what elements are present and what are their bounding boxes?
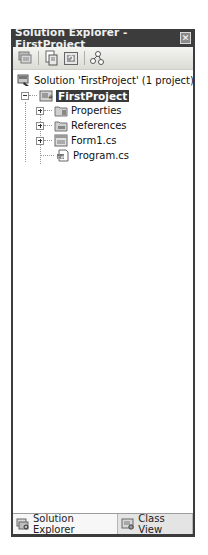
tree-item-label: References (71, 120, 127, 131)
form-icon (54, 134, 68, 147)
csharp-project-icon: # (39, 89, 53, 102)
tree-item-references[interactable]: References (13, 118, 193, 133)
tab-label: Solution Explorer (33, 513, 113, 535)
toolbar (13, 47, 193, 70)
close-icon: ✕ (182, 34, 190, 43)
title-bar[interactable]: Solution Explorer - FirstProject ✕ (13, 29, 193, 47)
solution-tree: Solution 'FirstProject' (1 project) # Fi… (13, 70, 193, 513)
collapse-toggle[interactable] (21, 92, 29, 100)
references-folder-icon (54, 119, 68, 132)
toolbar-separator (84, 51, 85, 65)
properties-folder-icon (54, 104, 68, 117)
properties-button[interactable] (43, 50, 59, 66)
view-class-diagram-button[interactable] (89, 50, 105, 66)
solution-explorer-panel: Solution Explorer - FirstProject ✕ (11, 29, 195, 537)
tree-item-form1[interactable]: Form1.cs (13, 133, 193, 148)
tree-connector (29, 95, 37, 96)
expand-toggle[interactable] (36, 107, 44, 115)
refresh-icon (63, 50, 79, 66)
tree-connector (44, 140, 52, 141)
tab-class-view[interactable]: Class View (118, 514, 193, 534)
expand-toggle[interactable] (36, 137, 44, 145)
tree-item-label: Form1.cs (71, 135, 116, 146)
solution-icon (17, 74, 31, 87)
close-button[interactable]: ✕ (180, 32, 191, 44)
tree-item-label: Solution 'FirstProject' (1 project) (34, 75, 194, 86)
tree-item-project[interactable]: # FirstProject (13, 88, 193, 103)
panel-tabs: Solution Explorer Class View (13, 513, 193, 534)
tree-item-properties[interactable]: Properties (13, 103, 193, 118)
class-view-icon (121, 518, 135, 531)
show-all-files-icon (17, 50, 33, 66)
panel-body: Solution 'FirstProject' (1 project) # Fi… (13, 47, 193, 534)
tab-solution-explorer[interactable]: Solution Explorer (13, 514, 118, 534)
refresh-button[interactable] (63, 50, 79, 66)
properties-icon (43, 50, 59, 66)
tree-connector (40, 155, 54, 156)
tree-item-label: Properties (71, 105, 122, 116)
tree-connector (44, 125, 52, 126)
tab-label: Class View (138, 513, 188, 535)
toolbar-separator (38, 51, 39, 65)
show-all-files-button[interactable] (17, 50, 33, 66)
tree-connector (44, 110, 52, 111)
tree-item-label: Program.cs (73, 150, 129, 161)
class-diagram-icon (89, 50, 105, 66)
expand-toggle[interactable] (36, 122, 44, 130)
solution-explorer-icon (16, 518, 30, 531)
svg-text:c#: c# (58, 154, 65, 160)
tree-item-program[interactable]: c# Program.cs (13, 148, 193, 163)
svg-text:#: # (48, 93, 53, 100)
tree-item-solution[interactable]: Solution 'FirstProject' (1 project) (13, 73, 193, 88)
tree-item-label: FirstProject (56, 90, 129, 102)
csharp-file-icon: c# (56, 149, 70, 162)
